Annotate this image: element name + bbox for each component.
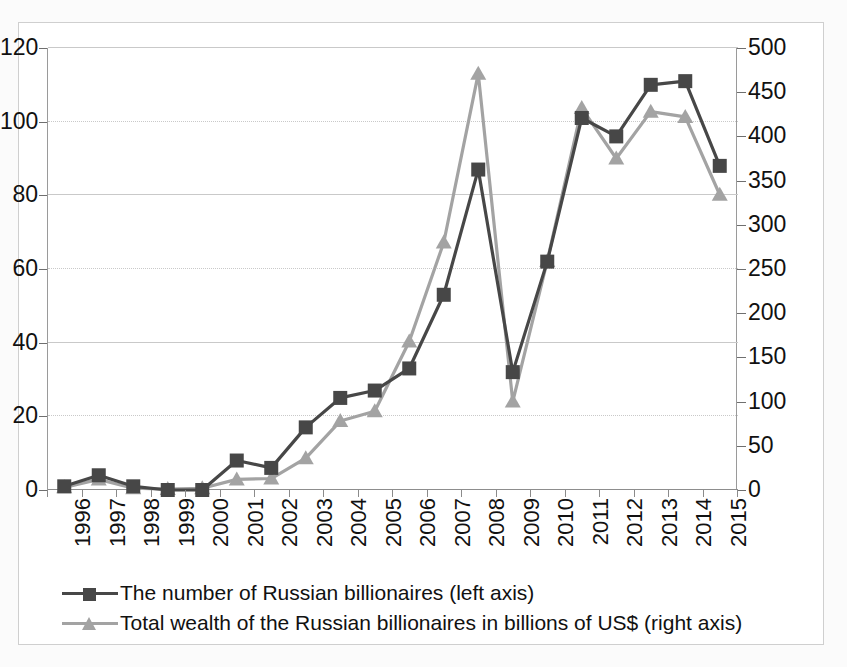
x-axis-tick-label: 2005: [384, 498, 404, 570]
left-axis-tick-label: 20: [0, 404, 38, 427]
left-axis-tick-label: 60: [0, 257, 38, 280]
square-marker-icon: [264, 461, 278, 475]
right-axis-tick-marks: [737, 48, 746, 490]
square-marker-icon: [609, 129, 623, 143]
square-marker-icon: [83, 588, 96, 601]
x-axis-tick-mark: [427, 490, 428, 497]
left-axis-tick-label: 0: [0, 478, 38, 501]
triangle-marker-icon: [712, 187, 728, 201]
x-axis-tick-label: 1997: [108, 498, 128, 570]
square-marker-icon: [299, 420, 313, 434]
x-axis-tick-label: 2000: [211, 498, 231, 570]
x-axis-tick-mark: [323, 490, 324, 497]
right-axis-tick-label: 300: [748, 213, 786, 236]
right-axis-tick-mark: [737, 48, 746, 49]
x-axis-tick-mark: [599, 490, 600, 497]
left-axis-tick-label: 80: [0, 183, 38, 206]
triangle-marker-icon: [367, 403, 383, 417]
x-axis-tick-label: 2011: [591, 498, 611, 570]
right-axis-tick-label: 150: [748, 345, 786, 368]
x-axis-tick-label: 2012: [625, 498, 645, 570]
x-axis-tick-label: 2014: [694, 498, 714, 570]
x-axis-tick-label: 2004: [349, 498, 369, 570]
left-axis-tick-label: 100: [0, 110, 38, 133]
square-marker-icon: [678, 74, 692, 88]
x-axis-tick-label: 1996: [73, 498, 93, 570]
x-axis-tick-mark: [461, 490, 462, 497]
right-axis-tick-mark: [737, 446, 746, 447]
x-axis-tick-mark: [496, 490, 497, 497]
x-axis-tick-mark: [358, 490, 359, 497]
square-marker-icon: [437, 288, 451, 302]
left-axis-tick-label: 40: [0, 331, 38, 354]
square-marker-icon: [713, 159, 727, 173]
x-axis-tick-label: 2008: [487, 498, 507, 570]
square-marker-icon: [644, 78, 658, 92]
series-2: [56, 66, 728, 495]
x-axis-tick-mark: [82, 490, 83, 497]
right-axis-tick-labels: 050100150200250300350400450500: [748, 48, 818, 490]
x-axis-tick-mark: [289, 490, 290, 497]
x-axis-tick-label: 2007: [453, 498, 473, 570]
legend-item-total-wealth: Total wealth of the Russian billionaires…: [62, 608, 802, 638]
square-marker-icon: [471, 163, 485, 177]
x-axis-tick-label: 2002: [280, 498, 300, 570]
triangle-marker-icon: [643, 104, 659, 118]
x-axis-tick-label: 2006: [418, 498, 438, 570]
right-axis-tick-label: 50: [748, 434, 774, 457]
triangle-marker-icon: [436, 234, 452, 248]
x-axis-tick-label: 1998: [142, 498, 162, 570]
x-axis-tick-label: 2003: [315, 498, 335, 570]
series-layer: [47, 48, 737, 490]
right-axis-tick-mark: [737, 357, 746, 358]
x-axis-tick-mark: [703, 490, 704, 497]
left-axis-tick-label: 120: [0, 36, 38, 59]
x-axis-tick-mark: [185, 490, 186, 497]
x-axis-tick-label: 2013: [660, 498, 680, 570]
x-axis-tick-mark: [530, 490, 531, 497]
right-axis-tick-label: 400: [748, 124, 786, 147]
triangle-marker-icon: [82, 617, 96, 630]
chart-figure: 020406080100120 050100150200250300350400…: [0, 0, 847, 667]
x-axis-tick-mark: [634, 490, 635, 497]
right-axis-tick-mark: [737, 225, 746, 226]
legend-key-triangle: [62, 613, 118, 633]
square-marker-icon: [333, 391, 347, 405]
right-axis-tick-label: 450: [748, 80, 786, 103]
x-axis-tick-label: 2001: [246, 498, 266, 570]
right-axis-tick-mark: [737, 402, 746, 403]
x-axis-tick-mark: [565, 490, 566, 497]
x-axis-tick-labels: 1996199719981999200020012002200320042005…: [47, 498, 737, 570]
square-marker-icon: [575, 111, 589, 125]
square-marker-icon: [368, 384, 382, 398]
x-axis-tick-mark: [392, 490, 393, 497]
right-axis-tick-label: 250: [748, 257, 786, 280]
right-axis-tick-mark: [737, 313, 746, 314]
triangle-marker-icon: [505, 394, 521, 408]
x-axis-tick-mark: [737, 490, 738, 497]
legend-label-total-wealth: Total wealth of the Russian billionaires…: [120, 611, 742, 635]
x-axis-tick-mark: [668, 490, 669, 497]
right-axis-tick-mark: [737, 490, 746, 491]
right-axis-tick-label: 500: [748, 36, 786, 59]
right-axis-tick-mark: [737, 181, 746, 182]
square-marker-icon: [402, 361, 416, 375]
legend-item-billionaire-count: The number of Russian billionaires (left…: [62, 578, 802, 608]
right-axis-tick-mark: [737, 92, 746, 93]
x-axis-tick-mark: [116, 490, 117, 497]
left-axis-tick-labels: 020406080100120: [0, 48, 38, 490]
square-marker-icon: [92, 468, 106, 482]
square-marker-icon: [506, 365, 520, 379]
right-axis-tick-mark: [737, 136, 746, 137]
triangle-marker-icon: [401, 333, 417, 347]
x-axis-tick-mark: [47, 490, 48, 497]
square-marker-icon: [230, 454, 244, 468]
right-axis-tick-label: 200: [748, 301, 786, 324]
right-axis-tick-label: 350: [748, 169, 786, 192]
x-axis-tick-mark: [220, 490, 221, 497]
x-axis-tick-label: 2015: [729, 498, 749, 570]
legend-key-square: [62, 583, 118, 603]
triangle-marker-icon: [470, 66, 486, 80]
series-1: [57, 74, 727, 497]
legend-label-billionaire-count: The number of Russian billionaires (left…: [120, 581, 534, 605]
